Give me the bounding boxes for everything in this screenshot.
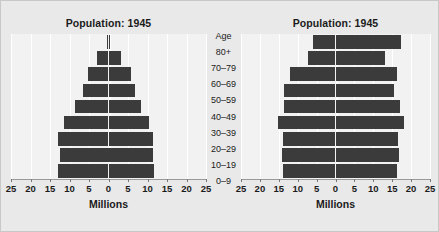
population-pyramid-figure: Population: 1945 2520151050510152025 Mil… [0, 0, 439, 232]
plot-area-left [11, 34, 206, 179]
age-label: 50–59 [206, 95, 241, 105]
axis-tick [89, 179, 90, 182]
gridline [430, 34, 431, 179]
pyramid-row [11, 84, 206, 98]
pyramid-row [11, 35, 206, 49]
axis-tick [411, 179, 412, 182]
bar-male [64, 116, 108, 130]
axis-tick [187, 179, 188, 182]
axis-tick-label: 20 [255, 183, 266, 194]
chart-title-left: Population: 1945 [11, 17, 206, 29]
bar-male [75, 100, 109, 114]
bar-male [58, 164, 109, 178]
age-label: 40–49 [206, 112, 241, 122]
pyramid-row [241, 84, 430, 98]
bar-male [97, 51, 109, 65]
bar-female [336, 51, 386, 65]
axis-tick [50, 179, 51, 182]
bar-male [60, 148, 109, 162]
axis-tick-label: 10 [64, 183, 75, 194]
axis-tick-label: 20 [25, 183, 36, 194]
axis-tick-label: 10 [292, 183, 303, 194]
axis-tick [430, 179, 431, 182]
age-column-header: Age [206, 31, 241, 41]
pyramid-row [241, 35, 430, 49]
bar-female [109, 164, 154, 178]
bar-female [336, 132, 399, 146]
chart-panel-right: Population: 1945 2520151050510152025 Mil… [241, 12, 430, 222]
plot-area-right [241, 34, 430, 179]
axis-tick [298, 179, 299, 182]
axis-tick-label: 25 [236, 183, 247, 194]
axis-tick [354, 179, 355, 182]
bar-male [58, 132, 108, 146]
axis-tick [11, 179, 12, 182]
axis-tick-label: 20 [406, 183, 417, 194]
bar-female [109, 51, 122, 65]
axis-tick [128, 179, 129, 182]
axis-tick [260, 179, 261, 182]
axis-tick-label: 20 [181, 183, 192, 194]
chart-title-right: Population: 1945 [241, 17, 430, 29]
age-label-column: Age80+70–7960–6950–5940–4930–3920–2910–1… [206, 31, 241, 171]
axis-tick [31, 179, 32, 182]
axis-tick-label: 15 [162, 183, 173, 194]
bar-female [336, 84, 395, 98]
pyramid-row [241, 116, 430, 130]
bar-male [282, 148, 336, 162]
bar-female [109, 67, 131, 81]
axis-tick [317, 179, 318, 182]
x-axis-title-left: Millions [11, 198, 206, 210]
bar-male [308, 51, 336, 65]
age-label: 70–79 [206, 63, 241, 73]
bar-female [109, 84, 136, 98]
axis-tick [167, 179, 168, 182]
axis-tick [70, 179, 71, 182]
axis-tick-label: 5 [314, 183, 319, 194]
x-axis-title-right: Millions [241, 198, 430, 210]
axis-tick [373, 179, 374, 182]
bar-male [283, 164, 336, 178]
axis-tick-label: 25 [425, 183, 436, 194]
pyramid-row [241, 132, 430, 146]
axis-tick [336, 179, 337, 182]
axis-tick-label: 15 [45, 183, 56, 194]
bar-female [109, 100, 141, 114]
age-label: 60–69 [206, 79, 241, 89]
age-label: 80+ [206, 47, 241, 57]
axis-tick [109, 179, 110, 182]
bar-male [283, 132, 336, 146]
age-label: 30–39 [206, 128, 241, 138]
pyramid-row [11, 116, 206, 130]
pyramid-row [241, 100, 430, 114]
pyramid-row [11, 164, 206, 178]
age-label: 20–29 [206, 144, 241, 154]
pyramid-row [241, 164, 430, 178]
bar-male [284, 84, 335, 98]
pyramid-row [241, 51, 430, 65]
pyramid-row [241, 148, 430, 162]
axis-tick-label: 15 [387, 183, 398, 194]
bar-female [109, 132, 154, 146]
axis-tick-label: 15 [274, 183, 285, 194]
axis-tick [392, 179, 393, 182]
bar-female [336, 164, 398, 178]
axis-tick [241, 179, 242, 182]
bar-rows-right [241, 34, 430, 179]
axis-tick-label: 0 [106, 183, 111, 194]
pyramid-row [11, 132, 206, 146]
bar-female [336, 148, 400, 162]
pyramid-row [11, 51, 206, 65]
axis-tick-label: 10 [142, 183, 153, 194]
axis-tick [279, 179, 280, 182]
bar-male [88, 67, 109, 81]
pyramid-row [11, 67, 206, 81]
chart-panel-left: Population: 1945 2520151050510152025 Mil… [11, 12, 206, 222]
axis-tick-label: 25 [6, 183, 17, 194]
bar-rows-left [11, 34, 206, 179]
bar-female [109, 35, 111, 49]
axis-tick-label: 5 [125, 183, 130, 194]
bar-female [336, 116, 405, 130]
bar-female [336, 100, 400, 114]
bar-female [109, 148, 153, 162]
